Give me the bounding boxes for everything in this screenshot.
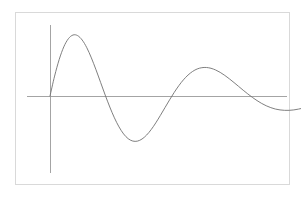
damped-oscillation-chart [0,0,301,199]
figure-container [0,0,301,199]
